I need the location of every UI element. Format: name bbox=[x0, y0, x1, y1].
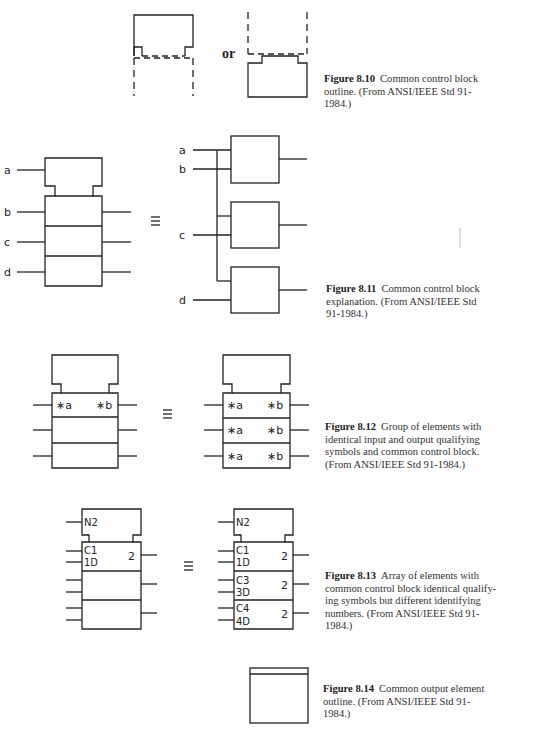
label-d: d bbox=[179, 294, 186, 307]
caption-figure-8-10: Figure 8.10Common control block outline.… bbox=[324, 73, 534, 111]
input-qualifier: ∗a bbox=[227, 450, 243, 463]
output-qualifier: ∗b bbox=[267, 424, 283, 437]
label-a: a bbox=[179, 144, 186, 157]
label-c: c bbox=[4, 236, 10, 249]
figure-8-12-right-diagram bbox=[204, 355, 309, 468]
figure-number: Figure 8.12 bbox=[325, 421, 376, 432]
figure-number: Figure 8.14 bbox=[323, 683, 374, 694]
output-qualifier: ∗b bbox=[96, 399, 112, 412]
input-qualifier: ∗a bbox=[56, 399, 72, 412]
output-number: 2 bbox=[128, 550, 135, 563]
caption-figure-8-14: Figure 8.14Common output element outline… bbox=[323, 683, 536, 721]
label-b: b bbox=[4, 206, 11, 219]
label-a: a bbox=[4, 164, 11, 177]
control-label-n2: N2 bbox=[236, 517, 250, 528]
output-qualifier: ∗b bbox=[267, 450, 283, 463]
caption-figure-8-11: Figure 8.11Common control block explanat… bbox=[326, 283, 536, 321]
label-d: d bbox=[4, 266, 11, 279]
equivalence-symbol-8-11 bbox=[151, 217, 160, 225]
figure-drawings: a b c d a b c d ∗a ∗b ∗a ∗b ∗a ∗b ∗a ∗b … bbox=[0, 0, 536, 747]
figure-8-11-left-diagram bbox=[17, 158, 131, 286]
element-label-4d: 4D bbox=[236, 616, 250, 627]
element-label-c1: C1 bbox=[236, 545, 249, 556]
input-qualifier: ∗a bbox=[227, 424, 243, 437]
element-label-1d: 1D bbox=[84, 557, 98, 568]
figure-8-10-left-outline bbox=[134, 15, 193, 96]
element-label-3d: 3D bbox=[236, 587, 250, 598]
output-number: 2 bbox=[281, 579, 288, 592]
figure-number: Figure 8.11 bbox=[326, 283, 376, 294]
figure-8-11-right-diagram bbox=[193, 136, 307, 313]
figure-8-14-output-outline bbox=[250, 668, 308, 723]
figure-8-13-left-diagram bbox=[66, 509, 157, 629]
figure-8-10-right-outline bbox=[248, 12, 307, 97]
caption-figure-8-13: Figure 8.13Array of elements with common… bbox=[325, 570, 536, 633]
equivalence-symbol-8-12 bbox=[163, 410, 172, 418]
output-number: 2 bbox=[281, 608, 288, 621]
element-label-1d: 1D bbox=[236, 557, 250, 568]
control-label-n2: N2 bbox=[84, 517, 98, 528]
element-label-c4: C4 bbox=[236, 603, 249, 614]
input-qualifier: ∗a bbox=[227, 399, 243, 412]
figure-8-12-left-diagram bbox=[33, 355, 137, 468]
figure-number: Figure 8.10 bbox=[324, 73, 375, 84]
equivalence-symbol-8-13 bbox=[184, 562, 193, 570]
figure-number: Figure 8.13 bbox=[325, 570, 376, 581]
element-label-c1: C1 bbox=[84, 545, 97, 556]
or-connector: or bbox=[222, 46, 235, 62]
output-number: 2 bbox=[281, 550, 288, 563]
caption-figure-8-12: Figure 8.12Group of elements with identi… bbox=[325, 421, 536, 471]
label-c: c bbox=[179, 229, 185, 242]
label-b: b bbox=[179, 163, 186, 176]
element-label-c3: C3 bbox=[236, 575, 249, 586]
document-page: a b c d a b c d ∗a ∗b ∗a ∗b ∗a ∗b ∗a ∗b … bbox=[0, 0, 536, 747]
output-qualifier: ∗b bbox=[267, 399, 283, 412]
figure-8-13-right-diagram bbox=[218, 509, 309, 629]
